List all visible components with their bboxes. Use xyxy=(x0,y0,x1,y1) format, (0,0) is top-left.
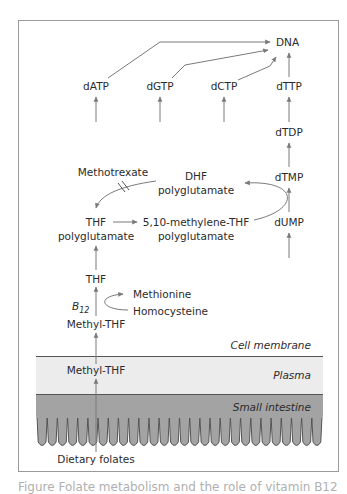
node-dhf-polyglutamate-line1: DHF xyxy=(185,170,207,182)
node-methotrexate: Methotrexate xyxy=(78,166,148,178)
node-thf-polyglutamate-line1: THF xyxy=(85,216,106,228)
region-small-intestine: Small intestine xyxy=(233,401,311,413)
node-homocysteine: Homocysteine xyxy=(133,305,208,317)
node-methyl-thf-cell: Methyl-THF xyxy=(67,318,126,330)
region-cell-membrane: Cell membrane xyxy=(231,339,311,351)
node-dump: dUMP xyxy=(274,216,304,228)
node-dhf-polyglutamate-line2: polyglutamate xyxy=(158,184,234,196)
node-methionine: Methionine xyxy=(133,288,191,300)
node-dtmp: dTMP xyxy=(275,171,303,183)
figure-caption: Figure Folate metabolism and the role of… xyxy=(18,480,338,494)
node-methylene-thf-line2: polyglutamate xyxy=(158,230,234,242)
region-plasma: Plasma xyxy=(273,369,311,381)
node-thf: THF xyxy=(85,273,106,285)
node-methyl-thf-plasma: Methyl-THF xyxy=(67,364,126,376)
node-dna: DNA xyxy=(276,36,300,48)
node-dctp: dCTP xyxy=(211,80,238,92)
node-dgtp: dGTP xyxy=(146,80,173,92)
node-dietary-folates: Dietary folates xyxy=(57,453,134,465)
node-dtdp: dTDP xyxy=(275,126,303,138)
node-dttp: dTTP xyxy=(276,80,302,92)
node-thf-polyglutamate-line2: polyglutamate xyxy=(58,230,134,242)
node-datp: dATP xyxy=(83,80,109,92)
node-methylene-thf-line1: 5,10-methylene-THF xyxy=(143,216,250,228)
